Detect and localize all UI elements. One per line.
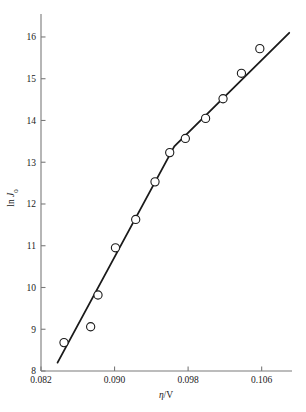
svg-text:η/V: η/V (159, 390, 173, 400)
data-point-marker (237, 69, 245, 77)
data-point-marker (87, 323, 95, 331)
y-tick-label: 9 (31, 325, 36, 335)
y-tick-label: 8 (31, 366, 36, 376)
data-point-marker (151, 178, 159, 186)
fit-line (58, 33, 290, 363)
x-tick-labels: 0.0820.0900.0980.106 (30, 375, 272, 385)
data-point-marker (94, 291, 102, 299)
y-tick-label: 13 (27, 158, 37, 168)
y-tick-label: 16 (27, 32, 37, 42)
y-tick-label: 15 (27, 74, 37, 84)
y-tick-label: 14 (27, 116, 37, 126)
y-tick-labels: 8910111213141516 (27, 32, 37, 376)
y-tick-label: 10 (27, 283, 37, 293)
y-tick-label: 11 (27, 241, 36, 251)
x-tick-label: 0.098 (177, 375, 199, 385)
x-tick-label: 0.090 (104, 375, 126, 385)
data-point-marker (181, 134, 189, 142)
data-point-marker (166, 149, 174, 157)
data-point-marker (219, 95, 227, 103)
svg-text:ln J0: ln J0 (6, 189, 19, 207)
data-point-marker (111, 244, 119, 252)
x-tick-label: 0.106 (251, 375, 273, 385)
tafel-plot-figure: 0.0820.0900.0980.106 8910111213141516 η/… (0, 0, 306, 412)
data-point-marker (60, 339, 68, 347)
data-point-marker (201, 114, 209, 122)
data-point-marker (256, 45, 264, 53)
chart-canvas: 0.0820.0900.0980.106 8910111213141516 η/… (0, 0, 306, 412)
y-tick-label: 12 (27, 199, 37, 209)
x-axis-title: η/V (159, 390, 173, 400)
x-tick-label: 0.082 (30, 375, 52, 385)
y-axis-title: ln J0 (6, 189, 19, 207)
fit-line-path (58, 33, 290, 363)
tick-marks (41, 37, 262, 371)
data-point-marker (132, 215, 140, 223)
